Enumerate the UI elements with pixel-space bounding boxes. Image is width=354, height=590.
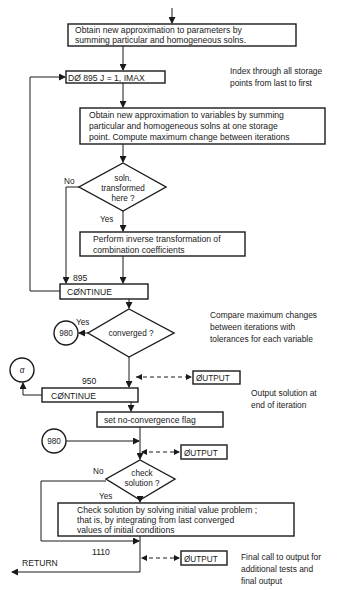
no-convergence-flag-box: set no-convergence flag	[97, 412, 223, 427]
statement-1110-label: 1110	[92, 547, 110, 557]
decision-transformed-line-1: soln.	[114, 174, 131, 183]
note-compare-line-2: between iterations with	[210, 322, 296, 332]
statement-895-label: 895	[73, 273, 88, 283]
decision-transformed-line-2: transformed	[101, 184, 145, 193]
top-box-line-1: Obtain new approximation to parameters b…	[75, 25, 242, 35]
inverse-box-line-2: combination coefficients	[93, 245, 185, 255]
variables-box-line-2: particular and homogeneous solns at one …	[89, 121, 278, 131]
decision-transformed-yes-label: Yes	[100, 215, 113, 224]
connector-980-in-label: 980	[47, 437, 61, 446]
continue-950-label: CØNTINUE	[51, 391, 96, 401]
continue-950-box: CØNTINUE	[42, 388, 138, 402]
decision-converged-yes-label: Yes	[76, 318, 89, 327]
decision-check-diamond: check solution ?	[106, 460, 175, 500]
note-compare-line-1: Compare maximum changes	[210, 310, 317, 320]
variables-process-box: Obtain new approximation to variables by…	[80, 108, 325, 144]
check-box-line-2: that is, by integrating from last conver…	[77, 515, 234, 525]
connector-980-out-label: 980	[59, 329, 73, 338]
note-final-line-1: Final call to output for	[241, 552, 321, 562]
output-2-box: ØUTPUT	[181, 445, 227, 459]
output-3-label: ØUTPUT	[184, 555, 218, 564]
do-loop-label: DØ 895 J = 1, IMAX	[68, 73, 145, 83]
decision-check-line-2: solution ?	[124, 479, 159, 488]
variables-box-line-3: point. Compute maximum change between it…	[89, 132, 290, 142]
output-3-box: ØUTPUT	[181, 551, 227, 565]
check-box-line-3: values of initial conditions	[77, 525, 174, 535]
decision-transformed-diamond: soln. transformed here ?	[79, 163, 166, 211]
to-alpha-arrow	[23, 383, 42, 395]
note-final-line-3: final output	[241, 576, 283, 586]
note-index-line-2: points from last to first	[230, 78, 313, 88]
arrow-head-icon	[136, 374, 142, 380]
connector-alpha: α	[10, 358, 34, 382]
continue-895-box: CØNTINUE	[60, 284, 148, 299]
connector-980-out: 980	[54, 321, 78, 345]
arrow-head-icon	[141, 555, 147, 561]
connector-alpha-label: α	[20, 366, 25, 375]
decision-converged-label: converged ?	[108, 329, 154, 338]
note-output-line-2: end of iteration	[251, 400, 307, 410]
top-process-box: Obtain new approximation to parameters b…	[68, 24, 296, 46]
arrow-head-icon	[186, 374, 192, 380]
top-box-line-2: summing particular and homogeneous solns…	[75, 35, 246, 45]
decision-transformed-no-label: No	[64, 177, 75, 186]
arrow-head-icon	[174, 555, 180, 561]
output-1-label: ØUTPUT	[196, 374, 230, 383]
note-output-line-1: Output solution at	[251, 388, 317, 398]
flag-box-label: set no-convergence flag	[104, 415, 196, 425]
connector-980-in: 980	[42, 429, 66, 453]
arrow-head-icon	[174, 449, 180, 455]
decision-check-yes-label: Yes	[99, 492, 112, 501]
return-label: RETURN	[22, 558, 58, 568]
output-2-label: ØUTPUT	[184, 449, 218, 458]
check-solution-box: Check solution by solving initial value …	[58, 503, 294, 536]
decision-converged-diamond: converged ?	[88, 309, 174, 357]
decision-check-line-1: check	[131, 469, 153, 478]
decision-transformed-line-3: here ?	[111, 194, 135, 203]
flowchart-canvas: Obtain new approximation to parameters b…	[0, 0, 354, 590]
loop-back-arrow	[30, 77, 65, 291]
inverse-box-line-1: Perform inverse transformation of	[93, 234, 221, 244]
note-index-line-1: Index through all storage	[230, 66, 323, 76]
check-box-line-1: Check solution by solving initial value …	[77, 505, 257, 515]
note-final-line-2: additional tests and	[241, 564, 314, 574]
decision-check-no-label: No	[93, 467, 104, 476]
no-branch-arrow	[66, 187, 79, 283]
arrow-head-icon	[141, 449, 147, 455]
do-loop-box: DØ 895 J = 1, IMAX	[66, 71, 165, 83]
output-1-box: ØUTPUT	[193, 371, 240, 384]
continue-895-label: CØNTINUE	[67, 287, 112, 297]
inverse-transformation-box: Perform inverse transformation of combin…	[80, 232, 245, 256]
statement-950-label: 950	[82, 376, 97, 386]
variables-box-line-1: Obtain new approximation to variables by…	[89, 110, 284, 120]
note-compare-line-3: tolerances for each variable	[210, 334, 313, 344]
